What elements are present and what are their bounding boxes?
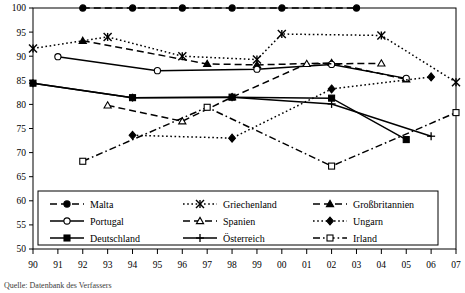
data-point-open-circle [254, 66, 260, 72]
legend-marker-open-square [327, 235, 333, 241]
data-point-open-circle [154, 68, 160, 74]
data-point-filled-square [403, 137, 409, 143]
data-point-filled-circle [80, 5, 86, 11]
data-point-open-square [204, 104, 210, 110]
legend-label: Großbritannien [353, 199, 414, 210]
legend-label: Österreich [223, 233, 265, 244]
data-point-filled-diamond [328, 85, 335, 93]
x-tick-label: 97 [202, 260, 212, 270]
x-tick-label: 91 [53, 260, 63, 270]
data-point-filled-circle [129, 5, 135, 11]
x-tick-label: 01 [302, 260, 312, 270]
series-line [33, 83, 431, 136]
x-tick-label: 04 [377, 260, 387, 270]
series-line [58, 57, 406, 79]
y-tick-label: 70 [17, 148, 27, 158]
y-tick-label: 85 [17, 76, 27, 86]
series-ungarn [129, 73, 434, 142]
series-line [108, 63, 382, 121]
legend-label: Deutschland [90, 233, 140, 244]
data-point-filled-diamond [229, 134, 236, 142]
y-tick-label: 75 [17, 124, 27, 134]
line-chart: 5055606570758085909510090919293949596979… [0, 0, 465, 280]
legend-label: Spanien [223, 216, 255, 227]
y-tick-label: 65 [17, 172, 27, 182]
x-tick-label: 02 [327, 260, 337, 270]
data-point-filled-circle [229, 5, 235, 11]
legend-label: Ungarn [353, 216, 383, 227]
x-tick-label: 98 [227, 260, 237, 270]
data-point-filled-circle [279, 5, 285, 11]
x-tick-label: 07 [451, 260, 461, 270]
x-tick-label: 03 [352, 260, 362, 270]
legend-label: Portugal [90, 216, 124, 227]
y-tick-label: 50 [17, 244, 27, 254]
legend-marker-open-circle [64, 218, 70, 224]
data-point-filled-diamond [428, 73, 435, 81]
data-point-open-circle [55, 54, 61, 60]
data-point-filled-circle [179, 5, 185, 11]
data-point-open-triangle [104, 102, 111, 108]
x-tick-label: 93 [103, 260, 113, 270]
x-tick-label: 05 [401, 260, 411, 270]
legend-marker-filled-square [64, 235, 70, 241]
x-tick-label: 95 [153, 260, 163, 270]
x-tick-label: 90 [28, 260, 38, 270]
legend-label: Griechenland [223, 199, 277, 210]
series-malta [80, 5, 360, 11]
x-tick-label: 99 [252, 260, 262, 270]
data-point-filled-diamond [129, 131, 136, 139]
y-tick-label: 80 [17, 100, 27, 110]
x-tick-label: 96 [178, 260, 188, 270]
data-point-open-square [453, 110, 459, 116]
series-line [33, 34, 456, 82]
y-tick-label: 95 [17, 28, 27, 38]
x-tick-label: 00 [277, 260, 287, 270]
legend-label: Malta [90, 199, 114, 210]
y-tick-label: 100 [12, 3, 27, 13]
x-tick-label: 92 [78, 260, 88, 270]
series-line [83, 41, 406, 80]
source-note: Quelle: Datenbank des Verfassers [4, 281, 112, 290]
y-tick-label: 90 [17, 52, 27, 62]
y-tick-label: 60 [17, 196, 27, 206]
data-point-open-square [329, 163, 335, 169]
data-point-open-square [80, 158, 86, 164]
x-tick-label: 94 [128, 260, 138, 270]
series-griechenland [29, 30, 460, 86]
series-österreich [29, 79, 435, 140]
y-tick-label: 55 [17, 220, 27, 230]
data-point-filled-circle [353, 5, 359, 11]
legend-label: Irland [353, 233, 377, 244]
legend-marker-filled-circle [64, 201, 70, 207]
data-point-open-triangle [378, 60, 385, 66]
x-tick-label: 06 [426, 260, 436, 270]
data-point-filled-triangle [79, 37, 86, 43]
legend: MaltaGriechenlandGroßbritannienPortugalS… [38, 191, 438, 245]
chart-root: 5055606570758085909510090919293949596979… [0, 0, 465, 293]
